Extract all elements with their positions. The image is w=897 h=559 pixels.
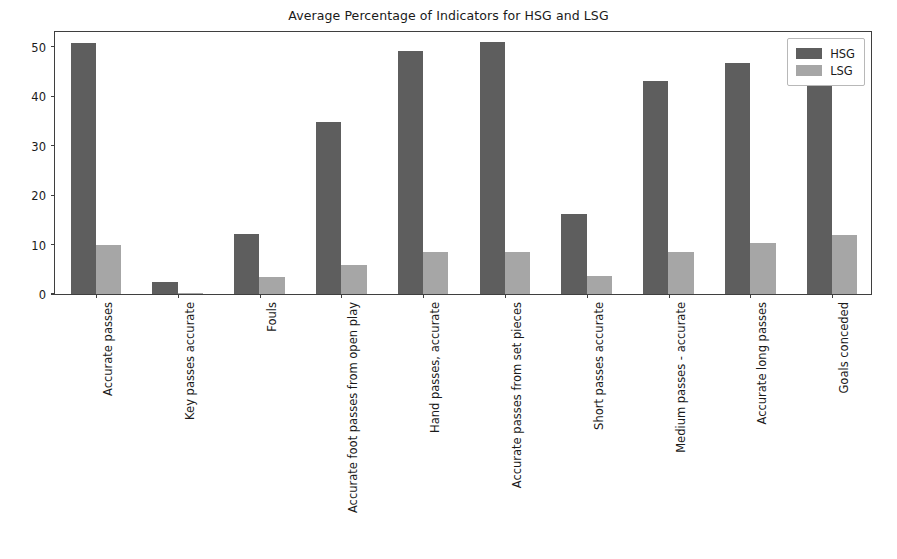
bar-lsg (259, 277, 284, 294)
legend-entry: LSG (796, 62, 855, 79)
x-tick-mark (341, 294, 342, 298)
x-tick-label: Accurate foot passes from open play (346, 302, 360, 513)
bar-hsg (725, 63, 750, 294)
bar-hsg (480, 42, 505, 294)
bar-lsg (505, 252, 530, 295)
chart-title: Average Percentage of Indicators for HSG… (0, 8, 897, 23)
bar-group (398, 32, 449, 294)
bar-group (152, 32, 203, 294)
x-tick-mark (178, 294, 179, 298)
bar-lsg (832, 235, 857, 294)
legend-entry: HSG (796, 45, 855, 62)
x-tick-mark (96, 294, 97, 298)
x-tick-label: Short passes accurate (592, 302, 606, 430)
bar-hsg (561, 214, 586, 294)
y-tick-label: 30 (31, 140, 46, 154)
bar-lsg (668, 252, 693, 294)
bar-hsg (234, 234, 259, 294)
x-tick-mark (260, 294, 261, 298)
x-tick-mark (669, 294, 670, 298)
bar-lsg (341, 265, 366, 294)
chart-figure: Average Percentage of Indicators for HSG… (0, 0, 897, 559)
x-tick-label: Accurate long passes (755, 302, 769, 425)
bars-layer (55, 32, 871, 294)
legend-swatch-hsg (796, 48, 822, 59)
x-tick-label: Goals conceded (837, 302, 851, 394)
bar-lsg (423, 252, 448, 294)
legend-label-hsg: HSG (830, 47, 855, 61)
bar-hsg (398, 51, 423, 294)
bar-group (316, 32, 367, 294)
y-tick-label: 0 (39, 288, 46, 302)
bar-group (71, 32, 122, 294)
y-tick-label: 20 (31, 189, 46, 203)
chart-legend: HSGLSG (787, 38, 865, 86)
y-tick-label: 40 (31, 90, 46, 104)
bar-hsg (643, 81, 668, 294)
x-tick-label: Fouls (265, 302, 279, 332)
x-tick-mark (832, 294, 833, 298)
bar-hsg (316, 122, 341, 294)
bar-lsg (587, 276, 612, 294)
bar-hsg (152, 282, 177, 294)
plot-area: 01020304050 Accurate passesKey passes ac… (54, 31, 872, 295)
x-tick-mark (423, 294, 424, 298)
bar-hsg (71, 43, 96, 294)
bar-lsg (96, 245, 121, 294)
legend-swatch-lsg (796, 65, 822, 76)
x-tick-mark (587, 294, 588, 298)
legend-label-lsg: LSG (830, 64, 853, 78)
bar-lsg (178, 293, 203, 294)
bar-hsg (807, 61, 832, 294)
x-tick-label: Accurate passes from set pieces (510, 302, 524, 488)
y-tick-label: 10 (31, 239, 46, 253)
x-tick-mark (505, 294, 506, 298)
x-tick-label: Accurate passes (101, 302, 115, 396)
bar-group (643, 32, 694, 294)
bar-group (480, 32, 531, 294)
x-tick-label: Medium passes - accurate (674, 302, 688, 453)
bar-group (561, 32, 612, 294)
x-tick-label: Key passes accurate (183, 302, 197, 420)
bar-group (725, 32, 776, 294)
x-tick-label: Hand passes, accurate (428, 302, 442, 433)
bar-group (234, 32, 285, 294)
bar-lsg (750, 243, 775, 294)
x-tick-mark (750, 294, 751, 298)
y-tick-label: 50 (31, 41, 46, 55)
